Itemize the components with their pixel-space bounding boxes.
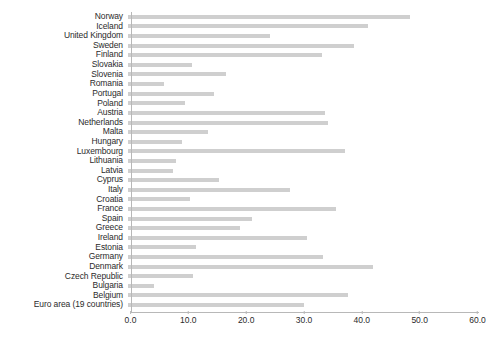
bar: [128, 53, 322, 57]
x-tick-mark: [419, 311, 420, 314]
bar: [128, 284, 154, 288]
bar-cell: [128, 127, 488, 137]
bar-row: Finland: [0, 50, 488, 60]
x-tick-mark: [303, 311, 304, 314]
bar-cell: [128, 89, 488, 99]
bar-cell: [128, 195, 488, 205]
bar-cell: [128, 204, 488, 214]
bar-row: Slovenia: [0, 70, 488, 80]
bar: [128, 217, 252, 221]
bar: [128, 111, 325, 115]
x-axis-ticks: 0.010.020.030.040.050.060.0: [0, 311, 488, 331]
x-tick-mark: [246, 311, 247, 314]
y-axis-line: [131, 12, 132, 312]
bar-row: Denmark: [0, 262, 488, 272]
bar: [128, 34, 270, 38]
category-label: Portugal: [0, 89, 128, 99]
bar-cell: [128, 22, 488, 32]
bar-cell: [128, 50, 488, 60]
bar-row: Ireland: [0, 233, 488, 243]
x-tick-label: 0.0: [125, 315, 137, 326]
bar: [128, 188, 290, 192]
x-tick-mark: [188, 311, 189, 314]
x-tick-label: 30.0: [296, 315, 313, 326]
bar-cell: [128, 223, 488, 233]
bar-cell: [128, 118, 488, 128]
bar: [128, 121, 328, 125]
bar: [128, 82, 164, 86]
x-tick-label: 20.0: [238, 315, 255, 326]
plot-area: NorwayIcelandUnited KingdomSwedenFinland…: [0, 0, 488, 350]
bar-row: Euro area (19 countries): [0, 300, 488, 310]
bar-row: Malta: [0, 127, 488, 137]
bar-row: United Kingdom: [0, 31, 488, 41]
bar-cell: [128, 41, 488, 51]
bar-chart: NorwayIcelandUnited KingdomSwedenFinland…: [0, 0, 488, 350]
bar-cell: [128, 262, 488, 272]
bar-row: Luxembourg: [0, 147, 488, 157]
bar: [128, 149, 345, 153]
bar-row: Netherlands: [0, 118, 488, 128]
bar: [128, 197, 190, 201]
bar: [128, 303, 304, 307]
bar: [128, 101, 185, 105]
bar-row: Lithuania: [0, 156, 488, 166]
bar-cell: [128, 70, 488, 80]
bar-row: Norway: [0, 12, 488, 22]
bar-row: Romania: [0, 79, 488, 89]
x-tick: 20.0: [238, 311, 255, 326]
bar-cell: [128, 214, 488, 224]
x-tick: 0.0: [125, 311, 137, 326]
bar: [128, 274, 193, 278]
bar-cell: [128, 281, 488, 291]
bar-cell: [128, 98, 488, 108]
bar-cell: [128, 271, 488, 281]
bar: [128, 255, 323, 259]
bar-row: Germany: [0, 252, 488, 262]
bar: [128, 72, 226, 76]
bar-row: Italy: [0, 185, 488, 195]
bar-row: Latvia: [0, 166, 488, 176]
bar: [128, 207, 336, 211]
bar-row: Austria: [0, 108, 488, 118]
bar-row: Estonia: [0, 243, 488, 253]
x-tick: 40.0: [354, 311, 371, 326]
bar-cell: [128, 243, 488, 253]
bar-cell: [128, 300, 488, 310]
bar: [128, 226, 240, 230]
bar-row: Croatia: [0, 195, 488, 205]
bar-cell: [128, 252, 488, 262]
bar: [128, 293, 348, 297]
bar: [128, 130, 208, 134]
bar-cell: [128, 137, 488, 147]
category-label: Euro area (19 countries): [0, 300, 128, 310]
x-tick-label: 40.0: [354, 315, 371, 326]
bar: [128, 15, 410, 19]
bar-cell: [128, 12, 488, 22]
bar: [128, 140, 182, 144]
bar-cell: [128, 185, 488, 195]
bar: [128, 245, 196, 249]
bar-cell: [128, 166, 488, 176]
x-tick: 60.0: [469, 311, 486, 326]
x-tick-mark: [477, 311, 478, 314]
bar-cell: [128, 291, 488, 301]
bar-row: Greece: [0, 223, 488, 233]
bar-row: Cyprus: [0, 175, 488, 185]
bar-row: Portugal: [0, 89, 488, 99]
x-tick: 30.0: [296, 311, 313, 326]
bar-row: Czech Republic: [0, 271, 488, 281]
bar: [128, 159, 176, 163]
bar: [128, 169, 173, 173]
x-tick: 50.0: [411, 311, 428, 326]
bar: [128, 24, 368, 28]
x-tick-label: 60.0: [469, 315, 486, 326]
bar-cell: [128, 31, 488, 41]
x-tick: 10.0: [180, 311, 197, 326]
bar-row: Sweden: [0, 41, 488, 51]
x-tick-label: 50.0: [411, 315, 428, 326]
bar-row: Spain: [0, 214, 488, 224]
bar-rows: NorwayIcelandUnited KingdomSwedenFinland…: [0, 12, 488, 310]
x-tick-label: 10.0: [180, 315, 197, 326]
bar: [128, 236, 307, 240]
